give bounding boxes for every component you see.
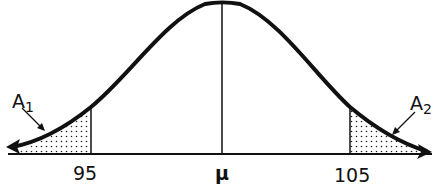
a2-base: A [410,92,423,114]
area-label-a2: A2 [410,92,432,117]
tick-label-105: 105 [334,164,370,186]
a2-sub: 2 [423,101,432,117]
a1-sub: 1 [25,99,34,115]
a1-base: A [12,90,25,112]
tick-label-95: 95 [73,162,97,184]
tick-label-mu: μ [215,162,229,184]
normal-curve-diagram: A1 A2 95 μ 105 [0,0,444,196]
area-label-a1: A1 [12,90,34,115]
